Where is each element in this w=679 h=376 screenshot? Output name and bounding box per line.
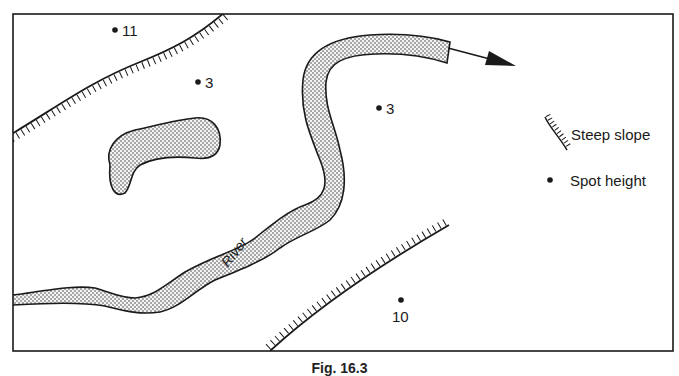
svg-text:11: 11	[122, 22, 138, 39]
spot-height-10: 10	[392, 297, 409, 325]
flow-direction-arrow	[448, 48, 516, 66]
legend: Steep slope Spot height	[545, 115, 650, 189]
svg-text:3: 3	[205, 74, 213, 91]
spot-height-3-west: 3	[195, 74, 213, 91]
spot-height-11: 11	[112, 22, 137, 39]
spot-height-symbol-icon	[547, 177, 553, 183]
steep-slope-lower	[268, 221, 449, 351]
spot-height-3-east: 3	[376, 100, 394, 117]
svg-text:Steep slope: Steep slope	[571, 126, 650, 143]
lake	[109, 118, 221, 194]
legend-spot-height: Spot height	[547, 172, 647, 189]
svg-text:Spot height: Spot height	[570, 172, 647, 189]
svg-text:10: 10	[392, 308, 409, 325]
legend-steep-slope: Steep slope	[545, 115, 650, 150]
steep-slope-symbol-icon	[545, 117, 567, 150]
figure-caption: Fig. 16.3	[0, 360, 679, 376]
river	[13, 34, 450, 313]
svg-text:3: 3	[386, 100, 394, 117]
